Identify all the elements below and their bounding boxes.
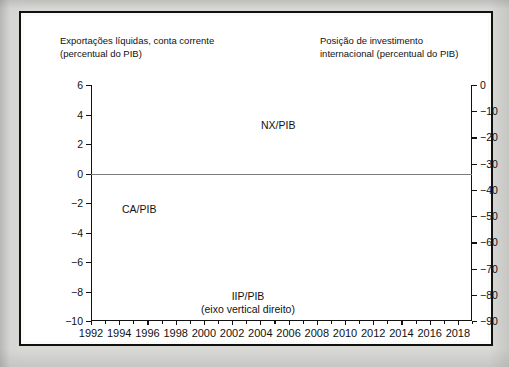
x-tick bbox=[260, 321, 261, 325]
series-label-nx: NX/PIB bbox=[261, 119, 295, 132]
right-tick-label: −40 bbox=[480, 184, 498, 196]
x-tick-minor bbox=[331, 321, 332, 324]
right-tick bbox=[472, 216, 477, 217]
right-tick-label: −30 bbox=[480, 158, 498, 170]
x-tick-label: 2012 bbox=[361, 327, 385, 339]
x-tick-label: 2002 bbox=[220, 327, 244, 339]
right-tick bbox=[472, 295, 477, 296]
left-tick bbox=[86, 233, 91, 234]
left-axis-spine bbox=[91, 85, 92, 321]
x-tick-minor bbox=[416, 321, 417, 324]
x-tick-label: 1998 bbox=[163, 327, 187, 339]
left-tick-label: 6 bbox=[77, 79, 83, 91]
left-tick-label: 4 bbox=[77, 109, 83, 121]
x-tick bbox=[147, 321, 148, 325]
left-tick-label: −4 bbox=[71, 227, 83, 239]
right-tick bbox=[472, 242, 477, 243]
x-tick bbox=[176, 321, 177, 325]
x-tick-label: 1994 bbox=[107, 327, 131, 339]
x-tick bbox=[317, 321, 318, 325]
x-tick-label: 2008 bbox=[305, 327, 329, 339]
x-tick-label: 2014 bbox=[389, 327, 413, 339]
left-axis-title: Exportações líquidas, conta corrente (pe… bbox=[60, 35, 214, 60]
x-tick-label: 1992 bbox=[79, 327, 103, 339]
x-tick-label: 2004 bbox=[248, 327, 272, 339]
right-tick-label: −70 bbox=[480, 263, 498, 275]
x-tick-minor bbox=[105, 321, 106, 324]
scanned-page: Exportações líquidas, conta corrente (pe… bbox=[0, 0, 509, 367]
zero-reference-line bbox=[91, 174, 472, 175]
x-tick bbox=[458, 321, 459, 325]
x-tick-minor bbox=[472, 321, 473, 324]
x-tick bbox=[204, 321, 205, 325]
x-tick-minor bbox=[359, 321, 360, 324]
x-tick-minor bbox=[218, 321, 219, 324]
left-tick-label: −2 bbox=[71, 197, 83, 209]
series-label-iip: IIP/PIB (eixo vertical direito) bbox=[201, 290, 295, 315]
x-tick bbox=[401, 321, 402, 325]
left-tick bbox=[86, 174, 91, 175]
right-tick-label: −10 bbox=[480, 105, 498, 117]
right-tick bbox=[472, 111, 477, 112]
x-tick-minor bbox=[133, 321, 134, 324]
right-tick bbox=[472, 164, 477, 165]
x-tick bbox=[430, 321, 431, 325]
x-tick-label: 2006 bbox=[276, 327, 300, 339]
left-tick-label: −10 bbox=[65, 315, 83, 327]
x-tick bbox=[289, 321, 290, 325]
x-tick-label: 2016 bbox=[417, 327, 441, 339]
right-tick bbox=[472, 137, 477, 138]
right-tick-label: −20 bbox=[480, 131, 498, 143]
x-tick-minor bbox=[274, 321, 275, 324]
left-tick bbox=[86, 292, 91, 293]
x-tick bbox=[373, 321, 374, 325]
left-tick bbox=[86, 85, 91, 86]
right-tick-label: −50 bbox=[480, 210, 498, 222]
x-tick-minor bbox=[444, 321, 445, 324]
figure-frame: Exportações líquidas, conta corrente (pe… bbox=[19, 11, 493, 346]
x-tick-minor bbox=[162, 321, 163, 324]
x-tick-label: 2018 bbox=[446, 327, 470, 339]
x-tick-minor bbox=[190, 321, 191, 324]
x-tick-minor bbox=[246, 321, 247, 324]
series-label-ca: CA/PIB bbox=[122, 203, 156, 216]
right-tick-label: −90 bbox=[480, 315, 498, 327]
right-axis-spine bbox=[471, 85, 472, 321]
right-tick bbox=[472, 269, 477, 270]
left-tick bbox=[86, 262, 91, 263]
left-tick-label: 2 bbox=[77, 138, 83, 150]
x-tick-label: 2010 bbox=[333, 327, 357, 339]
right-tick-label: −60 bbox=[480, 236, 498, 248]
right-tick-label: −80 bbox=[480, 289, 498, 301]
x-tick-label: 1996 bbox=[135, 327, 159, 339]
left-tick bbox=[86, 203, 91, 204]
right-tick-label: 0 bbox=[480, 79, 486, 91]
x-tick-minor bbox=[303, 321, 304, 324]
x-tick bbox=[232, 321, 233, 325]
left-tick-label: 0 bbox=[77, 168, 83, 180]
right-axis-title: Posição de investimento internacional (p… bbox=[320, 35, 458, 60]
x-tick bbox=[119, 321, 120, 325]
x-tick-minor bbox=[387, 321, 388, 324]
x-tick bbox=[345, 321, 346, 325]
left-tick-label: −8 bbox=[71, 286, 83, 298]
x-tick bbox=[91, 321, 92, 325]
left-tick bbox=[86, 144, 91, 145]
x-tick-label: 2000 bbox=[192, 327, 216, 339]
right-tick bbox=[472, 85, 477, 86]
left-tick bbox=[86, 115, 91, 116]
left-tick-label: −6 bbox=[71, 256, 83, 268]
right-tick bbox=[472, 190, 477, 191]
